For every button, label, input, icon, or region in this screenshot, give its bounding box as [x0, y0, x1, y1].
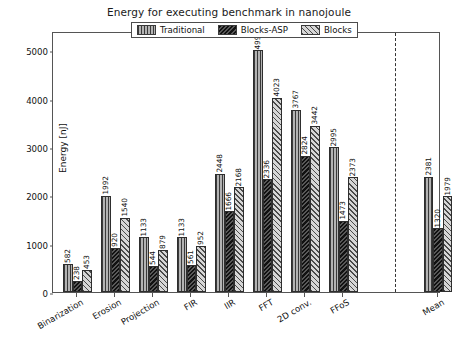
bar-value-label: 544 — [150, 251, 157, 265]
bar-blocks[interactable]: 952 — [196, 246, 206, 292]
bar-slot-blocks: 453 — [82, 33, 92, 292]
bar-group: 1133544879 — [139, 33, 168, 292]
x-tick-mark — [190, 293, 191, 297]
bar-blocks-asp[interactable]: 2824 — [301, 156, 311, 292]
bar-slot-traditional: 1133 — [139, 33, 149, 292]
chart-title: Energy for executing benchmark in nanojo… — [0, 6, 458, 18]
bar-blocks-asp[interactable]: 1666 — [225, 211, 235, 292]
bar-blocks-asp[interactable]: 544 — [149, 266, 159, 292]
x-tick-mark — [342, 293, 343, 297]
y-tick-mark — [50, 294, 54, 295]
bar-traditional[interactable]: 1133 — [177, 237, 187, 292]
bar-value-label: 1473 — [340, 201, 347, 220]
bar-group: 582238453 — [63, 33, 92, 292]
legend-label-traditional: Traditional — [160, 25, 205, 35]
bar-value-label: 561 — [188, 250, 195, 264]
bar-slot-blocks-asp: 1320 — [433, 33, 443, 292]
bar-traditional[interactable]: 2448 — [215, 174, 225, 292]
bar-slot-blocks: 3442 — [310, 33, 320, 292]
bar-group: 1133561952 — [177, 33, 206, 292]
bar-value-label: 879 — [159, 235, 166, 249]
bar-traditional[interactable]: 1992 — [101, 196, 111, 292]
bar-value-label: 1540 — [121, 198, 128, 217]
bar-slot-blocks: 2168 — [234, 33, 244, 292]
bar-slot-blocks: 1540 — [120, 33, 130, 292]
bar-slot-blocks: 2373 — [348, 33, 358, 292]
bar-blocks[interactable]: 2168 — [234, 187, 244, 292]
bar-blocks[interactable]: 4023 — [272, 98, 282, 292]
bar-blocks[interactable]: 3442 — [310, 126, 320, 292]
bar-slot-blocks-asp: 2336 — [263, 33, 273, 292]
bar-blocks-asp[interactable]: 2336 — [263, 179, 273, 292]
bar-blocks-asp[interactable]: 920 — [111, 248, 121, 292]
bar-value-label: 2995 — [330, 128, 337, 147]
bar-value-label: 238 — [74, 266, 81, 280]
legend-label-blocks: Blocks — [324, 25, 352, 35]
legend-swatch-traditional-icon — [137, 25, 156, 35]
bar-traditional[interactable]: 582 — [63, 264, 73, 292]
bar-value-label: 920 — [112, 233, 119, 247]
bar-traditional[interactable]: 1133 — [139, 237, 149, 292]
x-tick-mark — [114, 293, 115, 297]
bar-value-label: 453 — [83, 255, 90, 269]
bar-slot-blocks: 952 — [196, 33, 206, 292]
legend-swatch-blocks-asp-icon — [218, 25, 237, 35]
bar-value-label: 4023 — [273, 78, 280, 97]
plot-area: Energy [nJ] 010002000300040005000 582238… — [52, 32, 440, 293]
bar-slot-traditional: 582 — [63, 33, 73, 292]
bar-blocks-asp[interactable]: 1473 — [339, 221, 349, 292]
bar-value-label: 1992 — [102, 176, 109, 195]
bar-slot-blocks-asp: 2824 — [301, 33, 311, 292]
bar-value-label: 2448 — [216, 154, 223, 173]
x-tick-mark — [228, 293, 229, 297]
bar-slot-blocks: 879 — [158, 33, 168, 292]
bar-group: 299514732373 — [329, 33, 358, 292]
bar-slot-blocks: 1979 — [443, 33, 453, 292]
bar-value-label: 3442 — [311, 106, 318, 125]
bar-value-label: 2336 — [264, 160, 271, 179]
x-tick-mark — [304, 293, 305, 297]
mean-divider — [395, 33, 396, 292]
bar-value-label: 1133 — [140, 218, 147, 237]
bar-traditional[interactable]: 2995 — [329, 147, 339, 292]
bar-slot-traditional: 2995 — [329, 33, 339, 292]
bar-value-label: 1666 — [226, 192, 233, 211]
bar-blocks-asp[interactable]: 1320 — [433, 228, 443, 292]
bar-blocks-asp[interactable]: 561 — [187, 265, 197, 292]
bars-layer: 5822384531992920154011335448791133561952… — [53, 33, 439, 292]
legend-entry-blocks: Blocks — [301, 25, 352, 35]
bar-blocks[interactable]: 1540 — [120, 218, 130, 292]
bar-traditional[interactable]: 4998 — [253, 50, 263, 292]
bar-group: 499823364023 — [253, 33, 282, 292]
bar-group: 244816662168 — [215, 33, 244, 292]
bar-traditional[interactable]: 2381 — [424, 177, 434, 292]
bar-blocks[interactable]: 1979 — [443, 196, 453, 292]
bar-slot-traditional: 1992 — [101, 33, 111, 292]
bar-slot-blocks-asp: 1473 — [339, 33, 349, 292]
bar-traditional[interactable]: 3767 — [291, 110, 301, 292]
bar-value-label: 582 — [64, 249, 71, 263]
legend-label-blocks-asp: Blocks-ASP — [241, 25, 288, 35]
x-tick-mark — [437, 293, 438, 297]
bar-slot-blocks-asp: 544 — [149, 33, 159, 292]
bar-value-label: 3767 — [292, 90, 299, 109]
bar-value-label: 2168 — [235, 168, 242, 187]
bar-slot-blocks: 4023 — [272, 33, 282, 292]
bar-group: 238113201979 — [424, 33, 453, 292]
bar-value-label: 2373 — [349, 158, 356, 177]
bar-slot-traditional: 4998 — [253, 33, 263, 292]
bar-blocks[interactable]: 453 — [82, 270, 92, 292]
legend-swatch-blocks-icon — [301, 25, 320, 35]
bar-group: 376728243442 — [291, 33, 320, 292]
bar-blocks[interactable]: 2373 — [348, 177, 358, 292]
bar-slot-blocks-asp: 920 — [111, 33, 121, 292]
bar-slot-blocks-asp: 238 — [73, 33, 83, 292]
legend-entry-traditional: Traditional — [137, 25, 205, 35]
bar-blocks[interactable]: 879 — [158, 250, 168, 292]
bar-blocks-asp[interactable]: 238 — [73, 281, 83, 293]
bar-value-label: 1979 — [444, 177, 451, 196]
x-tick-mark — [152, 293, 153, 297]
bar-slot-traditional: 1133 — [177, 33, 187, 292]
bar-value-label: 952 — [197, 231, 204, 245]
bar-value-label: 2824 — [302, 136, 309, 155]
